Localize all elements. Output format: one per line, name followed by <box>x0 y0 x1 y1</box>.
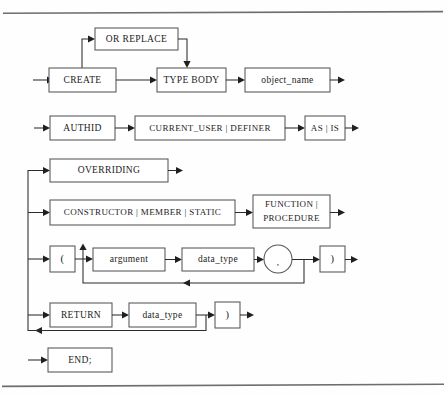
arrowhead-exit-row-create <box>338 76 345 83</box>
arrowhead-into-close-paren-return <box>208 311 215 318</box>
connector-left-spine <box>28 171 42 331</box>
arrowhead-into-data-type-arg <box>175 256 182 263</box>
connector-or-replace-to-type-body <box>178 39 187 61</box>
node-current-user-definer-label: CURRENT_USER | DEFINER <box>149 123 271 133</box>
arrowhead-into-function-procedure <box>246 209 253 216</box>
node-comma-separator-label: , <box>277 257 280 267</box>
node-end-statement-label: END; <box>68 355 92 365</box>
node-close-paren-arg-label: ) <box>331 253 335 265</box>
node-return-label: RETURN <box>61 310 101 320</box>
arrowhead-exit-row-authid <box>352 124 359 131</box>
node-object-name-label: object_name <box>261 75 313 85</box>
arrowhead-into-overriding <box>43 167 50 174</box>
arrowhead-into-current-user-definer <box>128 124 135 131</box>
arrowhead-exit-row-return <box>247 311 254 318</box>
node-overriding-label: OVERRIDING <box>78 165 141 175</box>
arrowhead-into-argument <box>86 255 93 262</box>
node-constructor-member-static-label: CONSTRUCTOR | MEMBER | STATIC <box>64 207 221 217</box>
syntax-diagram-canvas: OR REPLACE CREATE TYPE BODY object_name … <box>0 0 447 394</box>
arrowhead-into-comma <box>257 256 264 263</box>
arrowhead-into-constructor <box>43 209 50 216</box>
bottom-horizontal-rule <box>2 384 444 386</box>
node-authid-label: AUTHID <box>63 123 102 133</box>
arrowhead-exit-row-arguments <box>351 256 358 263</box>
node-or-replace-label: OR REPLACE <box>106 34 167 44</box>
node-data-type-arg-label: data_type <box>198 254 238 264</box>
arrowhead-into-or-replace <box>88 35 95 42</box>
arrowhead-into-close-paren-arg <box>313 256 320 263</box>
arrowhead-into-authid <box>43 124 50 131</box>
node-data-type-return-label: data_type <box>142 310 182 320</box>
node-type-body-label: TYPE BODY <box>163 75 219 85</box>
node-function-procedure-label-line1: FUNCTION | <box>265 199 318 209</box>
arrowhead-repeat-loop-left <box>183 279 190 286</box>
arrowhead-into-open-paren <box>43 255 50 262</box>
node-argument-label: argument <box>110 254 149 264</box>
arrowhead-into-type-body <box>150 76 157 83</box>
arrowhead-into-return <box>43 311 50 318</box>
connector-create-to-or-replace <box>82 39 88 68</box>
node-create-label: CREATE <box>64 75 102 85</box>
node-function-procedure-label-line2: PROCEDURE <box>263 213 320 223</box>
diagram-page: OR REPLACE CREATE TYPE BODY object_name … <box>0 0 447 394</box>
arrowhead-into-data-type-return <box>122 311 129 318</box>
arrowhead-into-end <box>41 356 48 363</box>
arrowhead-into-object-name <box>238 76 245 83</box>
node-as-is-label: AS | IS <box>311 123 339 133</box>
node-open-paren-label: ( <box>61 253 65 265</box>
arrowhead-repeat-loop-join <box>79 244 86 251</box>
arrowhead-exit-row-constructor <box>338 209 345 216</box>
arrowhead-exit-row-overriding <box>176 167 183 174</box>
top-horizontal-rule <box>3 12 443 14</box>
node-close-paren-return-label: ) <box>226 309 230 321</box>
arrowhead-into-type-body-top <box>183 61 190 68</box>
arrowhead-into-as-is <box>298 124 305 131</box>
